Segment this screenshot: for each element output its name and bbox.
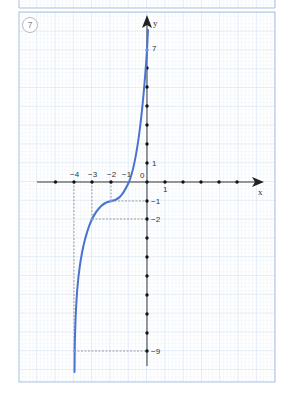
exercise-number-badge: 7 bbox=[23, 18, 38, 33]
previous-panel bbox=[19, 0, 275, 8]
x-tick-label: 1 bbox=[163, 185, 168, 194]
y-tick-label: −9 bbox=[151, 347, 161, 356]
graph-figure: 7 x −4 −3 −2 −1 0 1 bbox=[0, 0, 285, 403]
y-tick-label: −1 bbox=[151, 197, 161, 206]
x-axis-label: x bbox=[258, 187, 263, 197]
y-tick-label: 7 bbox=[152, 44, 157, 53]
x-tick-label: −2 bbox=[107, 170, 117, 179]
y-tick-label: −2 bbox=[151, 215, 161, 224]
x-tick-label: −3 bbox=[88, 170, 98, 179]
svg-text:7: 7 bbox=[27, 20, 32, 30]
y-axis-label: y bbox=[153, 18, 158, 28]
origin-label: 0 bbox=[140, 171, 145, 180]
x-tick-label: −4 bbox=[70, 170, 80, 179]
y-tick-label: 1 bbox=[152, 159, 157, 168]
